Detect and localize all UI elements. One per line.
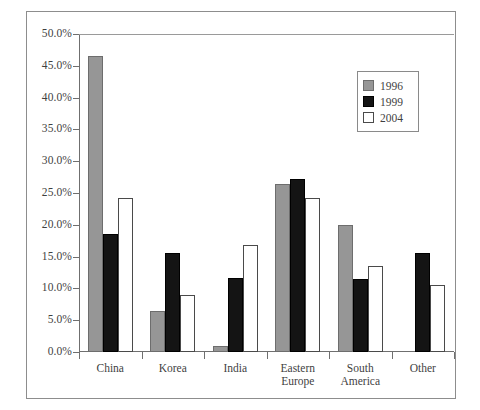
x-axis-category-label-line: China: [79, 362, 142, 375]
y-axis-tick-mark: [73, 225, 79, 226]
legend-label: 1999: [380, 96, 403, 108]
y-axis-tick-mark: [73, 352, 79, 353]
bar-india-1999: [228, 278, 243, 352]
x-axis-category-label: SouthAmerica: [329, 362, 392, 388]
x-axis-category-label-line: Korea: [142, 362, 205, 375]
y-axis-tick-mark: [73, 129, 79, 130]
x-axis-category-label-line: Other: [392, 362, 455, 375]
x-axis-category-label: Other: [392, 362, 455, 375]
chart-figure: 0.0%5.0%10.0%15.0%20.0%25.0%30.0%35.0%40…: [0, 0, 480, 410]
bar-south-america-1996: [338, 225, 353, 352]
bar-china-2004: [118, 198, 133, 352]
bar-other-2004: [430, 285, 445, 352]
x-axis-tick-mark: [79, 352, 80, 359]
bar-china-1999: [103, 234, 118, 352]
y-axis: 0.0%5.0%10.0%15.0%20.0%25.0%30.0%35.0%40…: [8, 0, 72, 410]
y-axis-tick-label: 15.0%: [10, 251, 72, 263]
bar-china-1996: [88, 56, 103, 352]
bar-group: [88, 34, 133, 352]
plot-top-rule: [79, 34, 454, 35]
legend-item-1999: 1999: [363, 94, 412, 109]
y-axis-tick-mark: [73, 66, 79, 67]
bar-korea-1996: [150, 311, 165, 352]
y-axis-tick-label: 45.0%: [10, 60, 72, 72]
x-axis-category-label: China: [79, 362, 142, 375]
x-axis-tick-mark: [267, 352, 268, 359]
y-axis-tick-mark: [73, 161, 79, 162]
bar-group: [213, 34, 258, 352]
legend-swatch-icon: [363, 80, 374, 91]
legend-item-2004: 2004: [363, 110, 412, 125]
bar-group: [275, 34, 320, 352]
bar-eastern-europe-1996: [275, 184, 290, 352]
y-axis-tick-label: 20.0%: [10, 219, 72, 231]
bar-south-america-1999: [353, 279, 368, 352]
y-axis-tick-label: 30.0%: [10, 155, 72, 167]
chart-legend: 199619992004: [357, 71, 419, 132]
legend-item-1996: 1996: [363, 78, 412, 93]
y-axis-tick-label: 10.0%: [10, 282, 72, 294]
x-axis-tick-mark: [329, 352, 330, 359]
bar-eastern-europe-1999: [290, 179, 305, 352]
x-axis-category-label-line: South: [329, 362, 392, 375]
y-axis-tick-mark: [73, 34, 79, 35]
bar-korea-1999: [165, 253, 180, 352]
y-axis-tick-mark: [73, 257, 79, 258]
x-axis-tick-mark: [392, 352, 393, 359]
legend-label: 1996: [380, 80, 403, 92]
bar-india-1996: [213, 346, 228, 352]
y-axis-tick-label: 40.0%: [10, 92, 72, 104]
bar-south-america-2004: [368, 266, 383, 352]
x-axis-tick-mark: [454, 352, 455, 359]
bar-group: [150, 34, 195, 352]
x-axis-category-label: India: [204, 362, 267, 375]
y-axis-tick-mark: [73, 320, 79, 321]
bar-other-1999: [415, 253, 430, 352]
legend-swatch-icon: [363, 112, 374, 123]
y-axis-tick-mark: [73, 98, 79, 99]
x-axis-category-label: Korea: [142, 362, 205, 375]
y-axis-tick-label: 0.0%: [10, 346, 72, 358]
x-axis-category-label-line: America: [329, 375, 392, 388]
legend-label: 2004: [380, 112, 403, 124]
y-axis-tick-label: 25.0%: [10, 187, 72, 199]
x-axis-category-label-line: Europe: [267, 375, 330, 388]
x-axis-category-label-line: India: [204, 362, 267, 375]
y-axis-tick-label: 50.0%: [10, 28, 72, 40]
bar-korea-2004: [180, 295, 195, 352]
x-axis-category-label-line: Eastern: [267, 362, 330, 375]
x-axis-tick-mark: [204, 352, 205, 359]
legend-swatch-icon: [363, 96, 374, 107]
y-axis-tick-mark: [73, 193, 79, 194]
y-axis-tick-label: 5.0%: [10, 314, 72, 326]
bar-eastern-europe-2004: [305, 198, 320, 352]
y-axis-tick-label: 35.0%: [10, 123, 72, 135]
bar-india-2004: [243, 245, 258, 352]
x-axis-tick-mark: [142, 352, 143, 359]
y-axis-tick-mark: [73, 288, 79, 289]
x-axis-category-label: EasternEurope: [267, 362, 330, 388]
plot-wrapper: 0.0%5.0%10.0%15.0%20.0%25.0%30.0%35.0%40…: [0, 0, 480, 410]
